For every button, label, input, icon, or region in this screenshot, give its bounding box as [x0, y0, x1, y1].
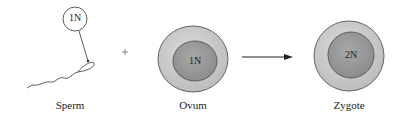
sperm-head: [78, 62, 94, 72]
sperm-pointer-line: [79, 31, 88, 61]
sperm-ploidy-label: 1N: [63, 12, 87, 23]
ovum-label: Ovum: [163, 99, 223, 111]
zygote-label: Zygote: [319, 99, 379, 111]
sperm-label: Sperm: [40, 99, 100, 111]
plus-sign: [122, 49, 128, 55]
right-arrow-icon: [242, 54, 293, 60]
zygote-ploidy-label: 2N: [339, 49, 363, 60]
ovum-ploidy-label: 1N: [183, 55, 207, 66]
sperm-pointer-dot: [87, 60, 90, 63]
sperm-tail: [27, 72, 78, 88]
